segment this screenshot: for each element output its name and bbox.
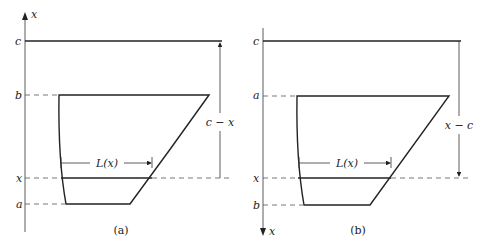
panel-a: x c b x a L(x) c − x (a) — [15, 8, 235, 237]
region-shape — [297, 96, 449, 205]
axis-arrow-up-icon — [22, 12, 28, 20]
width-label: L(x) — [95, 157, 118, 170]
axis-arrow-down-icon — [260, 228, 266, 236]
level-label-lower: a — [16, 198, 23, 211]
panel-b: x c a x b L(x) x − c (b) — [253, 28, 473, 238]
caption: (a) — [113, 224, 128, 237]
level-label-mid: x — [253, 172, 260, 185]
level-label-upper: a — [253, 89, 260, 102]
axis-label: x — [31, 8, 38, 21]
level-label-mid: x — [16, 172, 23, 185]
level-label-upper: b — [15, 89, 22, 102]
level-label-lower: b — [253, 199, 260, 212]
level-label-top: c — [15, 35, 21, 48]
level-label-top: c — [253, 35, 259, 48]
width-label: L(x) — [335, 157, 358, 170]
caption: (b) — [350, 224, 366, 237]
dimension-label: x − c — [445, 119, 474, 132]
axis-label: x — [269, 225, 276, 238]
diagram-canvas: x c b x a L(x) c − x (a) x c a x b — [0, 0, 483, 249]
dimension-label: c − x — [206, 116, 235, 129]
region-shape — [59, 95, 209, 204]
